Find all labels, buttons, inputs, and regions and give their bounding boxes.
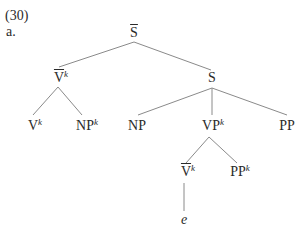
edge-vp-vbar — [186, 137, 209, 163]
edge-vbar-v — [33, 87, 58, 115]
node-s: S — [208, 71, 216, 85]
edge-vp-pp — [209, 137, 237, 163]
node-v-k: Vk — [28, 119, 42, 133]
node-s-bar: S — [130, 26, 138, 40]
edge-root-vbar — [59, 42, 134, 67]
edge-s-pp — [212, 88, 287, 115]
node-v-bar-k-lower: Vk — [181, 165, 195, 179]
node-np-k: NPk — [76, 119, 98, 133]
tree-edges — [0, 0, 306, 232]
edge-root-s — [134, 42, 211, 70]
node-empty-e: e — [181, 213, 187, 227]
node-np: NP — [128, 119, 146, 133]
edge-s-np — [138, 88, 212, 115]
node-vp-k: VPk — [202, 119, 224, 133]
node-pp: PP — [279, 119, 295, 133]
node-pp-k: PPk — [230, 165, 250, 179]
edge-vbar-np — [58, 87, 82, 115]
node-v-bar-k: Vk — [54, 71, 68, 85]
